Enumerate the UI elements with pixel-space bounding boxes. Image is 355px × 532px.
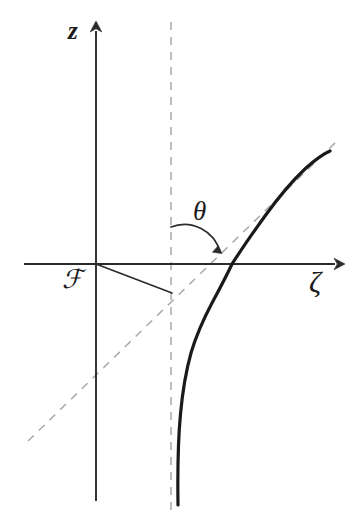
figure-container: z ζ θ ℱ — [0, 0, 355, 532]
diagram-canvas — [0, 0, 355, 532]
vertical-axis-arrow-icon — [90, 21, 102, 32]
angle-label-theta: θ — [193, 198, 206, 225]
angle-arc-theta — [171, 225, 220, 252]
focus-connector-line — [96, 264, 172, 293]
vertical-axis-label: z — [68, 18, 78, 43]
horizontal-axis-label: ζ — [309, 267, 321, 297]
angle-arc-arrow-icon — [213, 246, 223, 254]
focus-label-script-f: ℱ — [62, 266, 82, 292]
horizontal-axis-arrow-icon — [334, 258, 345, 270]
